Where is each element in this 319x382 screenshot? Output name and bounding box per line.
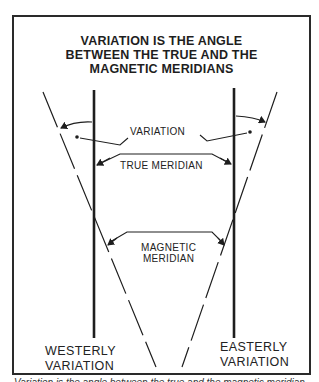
- westerly-variation-label: WESTERLY VARIATION: [45, 344, 116, 374]
- variation-dot-east: [248, 130, 252, 134]
- meridian-diagram: [0, 0, 319, 382]
- variation-arc-east: [236, 116, 265, 122]
- variation-leader-east: [200, 133, 247, 141]
- true-meridian-label: TRUE MERIDIAN: [120, 160, 203, 171]
- easterly-variation-label: EASTERLY VARIATION: [220, 340, 289, 370]
- variation-leader-west: [80, 138, 128, 145]
- variation-arc-west: [61, 122, 92, 128]
- variation-label: VARIATION: [130, 126, 185, 137]
- magnetic-meridian-label: MAGNETIC MERIDIAN: [141, 242, 196, 264]
- figure-caption-cropped: Variation is the angle between the true …: [14, 377, 305, 382]
- variation-dot-west: [75, 135, 79, 139]
- magnetic-meridian-leader: [110, 232, 222, 242]
- magnetic-meridian-east-line: [182, 92, 277, 367]
